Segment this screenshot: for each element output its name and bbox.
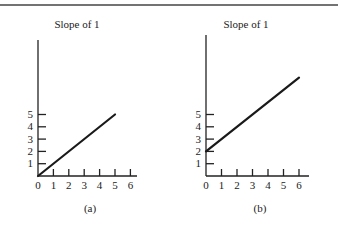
y-tick-label: 2	[196, 145, 202, 157]
x-tick-label: 3	[250, 179, 256, 191]
y-tick-label: 1	[28, 157, 34, 169]
y-tick-label: 5	[28, 108, 34, 120]
data-line	[38, 115, 115, 177]
y-tick-label: 3	[28, 133, 34, 145]
chart-title: Slope of 1	[54, 18, 99, 30]
x-tick-label: 3	[81, 179, 87, 191]
y-tick-label: 4	[196, 120, 202, 132]
x-tick-label: 4	[97, 179, 103, 191]
figure-canvas: Slope of 1123450123456(a) Slope of 11234…	[0, 0, 338, 228]
x-tick-label: 2	[234, 179, 240, 191]
x-tick-label: 6	[128, 179, 134, 191]
panel-label: (a)	[84, 202, 97, 215]
chart-panel-a: Slope of 1123450123456(a)	[28, 18, 138, 215]
x-tick-label: 5	[281, 179, 287, 191]
y-tick-label: 5	[196, 108, 202, 120]
x-tick-label: 1	[219, 179, 225, 191]
x-tick-label: 1	[51, 179, 57, 191]
chart-title: Slope of 1	[223, 18, 268, 30]
x-tick-label: 2	[66, 179, 72, 191]
y-tick-label: 1	[196, 157, 202, 169]
y-tick-label: 4	[28, 120, 34, 132]
x-tick-label: 5	[112, 179, 118, 191]
data-line	[206, 78, 299, 152]
chart-panel-b: Slope of 1123450123456(b)	[196, 18, 310, 215]
x-tick-label: 0	[203, 179, 209, 191]
x-tick-label: 4	[265, 179, 271, 191]
x-tick-label: 0	[35, 179, 41, 191]
x-tick-label: 6	[296, 179, 302, 191]
y-tick-label: 2	[28, 145, 34, 157]
figure: Slope of 1123450123456(a) Slope of 11234…	[0, 0, 338, 228]
panel-label: (b)	[254, 202, 267, 215]
y-tick-label: 3	[196, 133, 202, 145]
